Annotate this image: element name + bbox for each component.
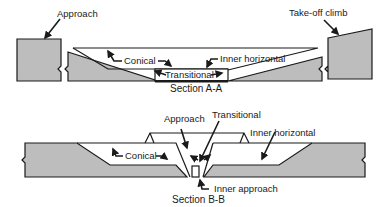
label-takeoff-climb: Take-off climb [289, 7, 347, 18]
bb-approach-arrow [181, 129, 187, 148]
bb-conical-arrow-right [156, 156, 167, 159]
section-b-b: Approach Transitional Inner horizontal C… [22, 109, 365, 205]
bb-inner-approach-arrow [200, 180, 209, 189]
approach-arrow [45, 19, 60, 38]
right-ground [204, 143, 365, 177]
approach-surface-tick-right [240, 133, 244, 143]
bb-label-transitional: Transitional [212, 109, 261, 120]
inner-horizontal-arrow [207, 59, 218, 67]
label-transitional: Transitional [165, 69, 214, 80]
conical-arrow-left [108, 51, 122, 61]
obstruction-surfaces-diagram: Approach Take-off climb Conical Inner ho… [0, 0, 386, 207]
approach-surface-tick-left [150, 133, 154, 143]
section-a-a: Approach Take-off climb Conical Inner ho… [17, 7, 372, 94]
left-ground [22, 143, 187, 177]
approach-block [17, 39, 61, 81]
bb-transitional-arrow-left [191, 156, 198, 160]
inner-approach-rect [192, 166, 199, 177]
takeoff-arrow [324, 20, 338, 34]
label-conical: Conical [124, 55, 156, 66]
conical-arrow-right [158, 61, 171, 66]
label-inner-horizontal: Inner horizontal [220, 53, 285, 64]
caption-section-b-b: Section B-B [172, 194, 225, 205]
bb-conical-arrow-left [113, 149, 123, 156]
approach-surface-outline [145, 133, 249, 143]
caption-section-a-a: Section A-A [170, 83, 223, 94]
bb-label-conical: Conical [125, 150, 157, 161]
bb-label-approach: Approach [164, 113, 205, 124]
bb-label-inner-horizontal: Inner horizontal [250, 127, 315, 138]
bb-label-inner-approach: Inner approach [214, 183, 278, 194]
label-approach: Approach [57, 8, 98, 19]
takeoff-climb-block [325, 29, 372, 79]
